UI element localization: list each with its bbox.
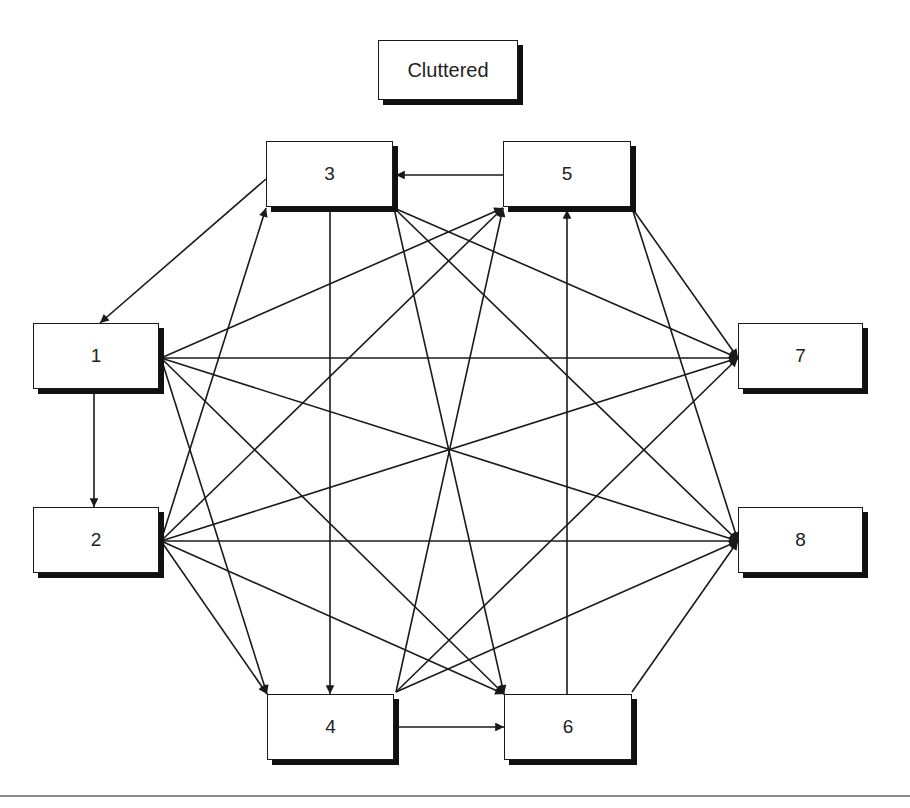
node-2: 2: [33, 507, 159, 573]
node-5: 5: [503, 141, 631, 207]
node-7: 7: [738, 323, 863, 389]
edge-1-to-5: [161, 208, 503, 358]
edge-2-to-6: [161, 541, 504, 694]
node-label: 5: [562, 163, 573, 185]
node-label: 2: [91, 529, 102, 551]
edge-3-to-1: [100, 179, 266, 323]
diagram-title: Cluttered: [407, 59, 488, 82]
node-label: 6: [563, 716, 574, 738]
edge-layer: [94, 175, 738, 727]
node-label: 4: [325, 716, 336, 738]
node-4: 4: [267, 694, 394, 760]
node-label: 7: [795, 345, 806, 367]
bottom-divider: [0, 795, 910, 797]
node-6: 6: [504, 694, 632, 760]
node-label: 1: [91, 345, 102, 367]
node-8: 8: [738, 507, 863, 573]
diagram-canvas: [0, 0, 910, 808]
edge-3-to-7: [394, 208, 738, 358]
node-1: 1: [33, 323, 159, 389]
diagram-title-box: Cluttered: [378, 40, 518, 100]
node-label: 3: [324, 163, 335, 185]
node-label: 8: [795, 529, 806, 551]
node-3: 3: [266, 141, 393, 207]
edge-1-to-6: [161, 358, 504, 694]
